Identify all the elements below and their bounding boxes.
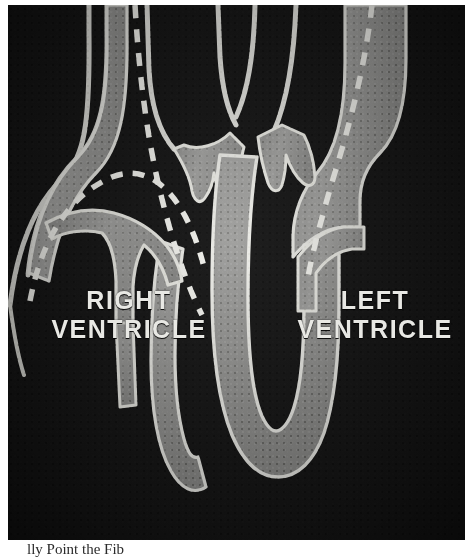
right-ventricle-papillary-strand bbox=[116, 323, 136, 407]
figure-root: RIGHT VENTRICLE LEFT VENTRICLE lly Point… bbox=[0, 0, 474, 557]
great-vessel-crossing-pair bbox=[147, 5, 296, 149]
vessel-tail-lower-left bbox=[10, 305, 24, 375]
halftone-plate: RIGHT VENTRICLE LEFT VENTRICLE bbox=[8, 5, 465, 540]
ventricle-diagram-svg bbox=[8, 5, 465, 540]
figure-caption: lly Point the Fib bbox=[27, 542, 457, 557]
figure-caption-text: lly Point the Fib bbox=[27, 542, 457, 557]
